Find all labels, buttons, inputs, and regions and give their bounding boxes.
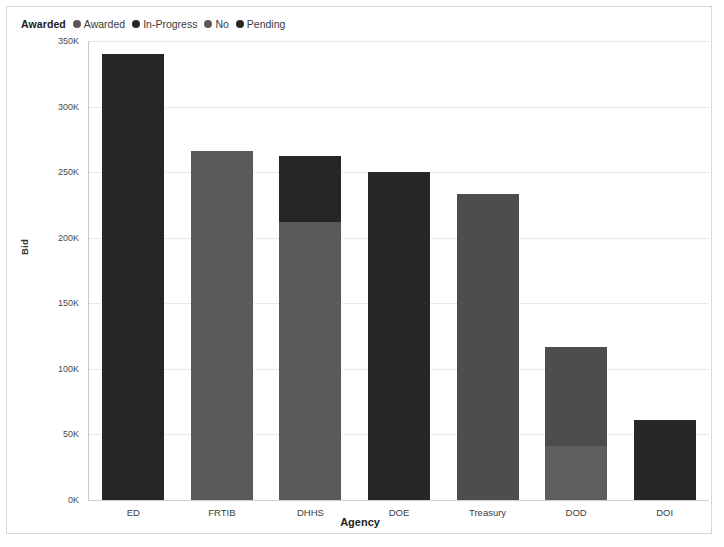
y-axis-tick-label: 0K xyxy=(37,495,79,505)
bar-stack xyxy=(279,156,341,500)
chart-container: Awarded AwardedIn-ProgressNoPending Bid … xyxy=(6,6,712,534)
bar-stack xyxy=(457,194,519,500)
bar-segment-awarded[interactable] xyxy=(191,151,253,500)
y-axis-tick-label: 100K xyxy=(37,364,79,374)
plot-area: Bid 0K50K100K150K200K250K300K350K EDFRTI… xyxy=(7,7,713,535)
bar-frtib[interactable] xyxy=(191,41,253,500)
bar-segment-in-progress[interactable] xyxy=(634,420,696,500)
bar-stack xyxy=(545,347,607,500)
bar-segment-in-progress[interactable] xyxy=(368,172,430,500)
y-axis-tick-label: 150K xyxy=(37,298,79,308)
bar-segment-in-progress[interactable] xyxy=(279,156,341,222)
y-axis-tick-label: 50K xyxy=(37,429,79,439)
bar-segment-awarded[interactable] xyxy=(545,446,607,500)
gridline xyxy=(89,500,709,501)
bar-stack xyxy=(634,420,696,500)
y-axis-tick-label: 350K xyxy=(37,36,79,46)
bar-ed[interactable] xyxy=(102,41,164,500)
bars-area xyxy=(89,41,709,500)
bar-doi[interactable] xyxy=(634,41,696,500)
bar-stack xyxy=(191,151,253,500)
bar-stack xyxy=(368,172,430,500)
bar-segment-awarded[interactable] xyxy=(457,194,519,500)
bar-segment-in-progress[interactable] xyxy=(102,54,164,500)
y-axis-title: Bid xyxy=(19,239,30,255)
y-axis-tick-label: 250K xyxy=(37,167,79,177)
bar-treasury[interactable] xyxy=(457,41,519,500)
bar-stack xyxy=(102,54,164,500)
y-axis-tick-label: 300K xyxy=(37,102,79,112)
bar-segment-awarded[interactable] xyxy=(279,222,341,500)
bar-dhhs[interactable] xyxy=(279,41,341,500)
bar-doe[interactable] xyxy=(368,41,430,500)
bar-segment-pending[interactable] xyxy=(545,347,607,447)
bar-dod[interactable] xyxy=(545,41,607,500)
x-axis-title: Agency xyxy=(7,516,713,528)
y-axis-tick-label: 200K xyxy=(37,233,79,243)
